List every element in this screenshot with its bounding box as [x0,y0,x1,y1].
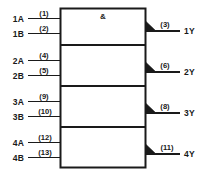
gate-2-output-pin: (6) [160,61,170,70]
gate-1-output-amplifier-icon [146,21,157,31]
gate-3-input-b-pin: (10) [38,107,52,116]
gate-1-input-a-label: 1A [13,14,24,24]
symbol-outline [61,9,146,168]
gate-3-input-a-label: 3A [13,97,24,107]
logic-symbol-diagram: & 1A 1B (1) (2) (3) 1Y 2A 2B (4) (5) [0,0,202,176]
and-qualifying-symbol: & [100,12,106,21]
gate-2-input-b-pin: (5) [39,66,49,75]
gate-4-output-amplifier-icon [146,144,157,154]
symbol-outline-group [61,9,146,168]
gate-1-input-a-pin: (1) [39,9,49,18]
gate-2-input-a-pin: (4) [39,51,49,60]
gate-4-input-b-label: 4B [13,153,24,163]
gate-3-input-b-label: 3B [13,112,24,122]
gate-3-group: 3A 3B (9) (10) (8) 3Y [13,92,195,122]
gate-1-output-label: 1Y [184,26,195,36]
gate-2-input-a-label: 2A [13,56,24,66]
gate-2-input-b-label: 2B [13,71,24,81]
gate-1-input-b-pin: (2) [39,24,49,33]
gate-3-output-label: 3Y [184,108,195,118]
gate-3-output-amplifier-icon [146,103,157,113]
diagram-canvas: & 1A 1B (1) (2) (3) 1Y 2A 2B (4) (5) [0,0,202,176]
gate-4-output-pin: (11) [160,143,174,152]
gate-1-input-b-label: 1B [13,29,24,39]
gate-4-input-b-pin: (13) [38,148,52,157]
gate-3-output-pin: (8) [160,102,170,111]
gate-2-group: 2A 2B (4) (5) (6) 2Y [13,51,195,81]
gate-4-input-a-label: 4A [13,138,24,148]
gate-4-input-a-pin: (12) [38,133,52,142]
gate-4-output-label: 4Y [184,149,195,159]
gate-3-input-a-pin: (9) [39,92,49,101]
gate-4-group: 4A 4B (12) (13) (11) 4Y [13,133,195,163]
gate-1-output-pin: (3) [160,20,170,29]
gate-2-output-label: 2Y [184,67,195,77]
gate-2-output-amplifier-icon [146,62,157,72]
